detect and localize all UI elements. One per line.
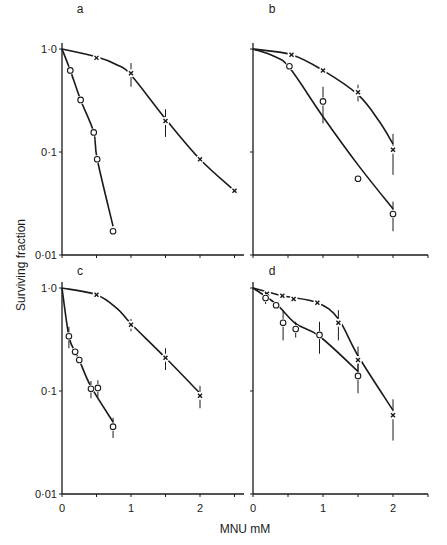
y-axis-label: Surviving fraction <box>14 219 28 311</box>
circle-marker <box>76 357 82 363</box>
circle-marker <box>78 97 84 103</box>
x-tick-label: 1 <box>128 502 134 514</box>
survival-curves-figure: 1·00·10·01ab1·00·10·01012c012d Surviving… <box>0 0 447 545</box>
y-tick-label: 0·01 <box>35 249 57 261</box>
circle-marker <box>280 320 286 326</box>
circle-marker <box>94 156 100 162</box>
x-tick-label: 0 <box>59 502 65 514</box>
circle-marker <box>72 349 78 355</box>
panel-b: b <box>250 2 428 258</box>
fit-curve-crosses <box>62 49 235 191</box>
y-tick-label: 0·01 <box>35 488 57 500</box>
circle-marker <box>88 386 94 392</box>
fit-curve-circles <box>62 288 113 422</box>
fit-curve-crosses <box>62 288 200 393</box>
circle-marker <box>293 326 299 332</box>
fit-curve-circles <box>62 49 113 226</box>
circle-marker <box>263 295 269 301</box>
circle-marker <box>355 176 361 182</box>
fit-curve-circles <box>253 288 358 371</box>
circle-marker <box>91 130 97 136</box>
circle-marker <box>66 333 72 339</box>
circle-marker <box>355 373 361 379</box>
y-tick-label: 1·0 <box>41 282 57 294</box>
panels-group: 1·00·10·01ab1·00·10·01012c012d <box>35 2 428 514</box>
circle-marker <box>390 211 396 217</box>
panel-label-c: c <box>77 264 83 278</box>
panel-a: 1·00·10·01a <box>35 2 244 261</box>
circle-marker <box>110 228 116 234</box>
circle-marker <box>320 99 326 105</box>
y-tick-label: 0·1 <box>41 146 57 158</box>
x-tick-label: 2 <box>197 502 203 514</box>
x-tick-label: 2 <box>390 502 396 514</box>
circle-marker <box>287 63 293 69</box>
x-tick-label: 1 <box>320 502 326 514</box>
circle-marker <box>110 424 116 430</box>
panel-d: 012d <box>250 264 428 514</box>
x-tick-label: 0 <box>250 502 256 514</box>
circle-marker <box>95 385 101 391</box>
circle-marker <box>317 332 323 338</box>
panel-label-b: b <box>269 2 276 16</box>
circle-marker <box>273 302 279 308</box>
panel-c: 1·00·10·01012c <box>35 264 244 514</box>
x-axis-label: MNU mM <box>220 522 271 536</box>
panel-label-a: a <box>77 2 84 16</box>
panel-label-d: d <box>269 264 276 278</box>
y-tick-label: 0·1 <box>41 385 57 397</box>
circle-marker <box>67 68 73 74</box>
y-tick-label: 1·0 <box>41 43 57 55</box>
